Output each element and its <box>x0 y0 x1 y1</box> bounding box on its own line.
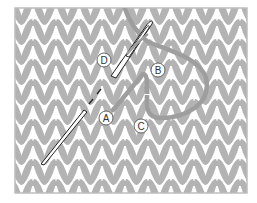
stitch-square <box>169 81 174 86</box>
stitch-square <box>215 161 220 166</box>
stitch-square <box>100 161 105 166</box>
stitch-square <box>100 141 105 146</box>
stitch-square <box>31 81 36 86</box>
stitch-square <box>123 101 128 106</box>
stitch-square <box>123 41 128 46</box>
stitch-square <box>54 61 59 66</box>
stitch-square <box>31 161 36 166</box>
stitch-square <box>54 41 59 46</box>
stitch-square <box>192 141 197 146</box>
stitch-square <box>192 21 197 26</box>
stitch-square <box>31 41 36 46</box>
stitch-square <box>215 181 220 186</box>
label-c: C <box>134 119 148 133</box>
stitch-square <box>169 181 174 186</box>
stitch-square <box>77 81 82 86</box>
label-b: B <box>151 63 165 77</box>
stitch-square <box>123 121 128 126</box>
stitch-square <box>54 81 59 86</box>
stitch-square <box>238 141 243 146</box>
stitch-square <box>123 81 128 86</box>
stitch-square <box>192 181 197 186</box>
stitch-square <box>54 121 59 126</box>
stitch-square <box>192 81 197 86</box>
stitch-square <box>100 181 105 186</box>
stitch-square <box>123 161 128 166</box>
stitch-square <box>238 161 243 166</box>
stitch-square <box>192 121 197 126</box>
stitch-square <box>77 61 82 66</box>
stitch-square <box>31 121 36 126</box>
stitch-square <box>77 41 82 46</box>
stitch-square <box>77 181 82 186</box>
stitch-square <box>31 101 36 106</box>
stitch-square <box>169 101 174 106</box>
stitch-square <box>192 161 197 166</box>
stitch-square <box>146 61 151 66</box>
stitch-square <box>169 161 174 166</box>
stitch-square <box>146 181 151 186</box>
stitch-square <box>238 61 243 66</box>
stitch-square <box>146 141 151 146</box>
stitch-square <box>215 21 220 26</box>
stitch-square <box>54 21 59 26</box>
label-letter: A <box>103 113 110 124</box>
label-letter: C <box>137 121 144 132</box>
stitch-square <box>238 21 243 26</box>
stitch-square <box>31 181 36 186</box>
stitch-square <box>100 101 105 106</box>
stitch-square <box>238 181 243 186</box>
stitch-square <box>215 121 220 126</box>
stitch-square <box>169 141 174 146</box>
stitch-square <box>215 141 220 146</box>
stitch-square <box>123 181 128 186</box>
stitch-square <box>31 61 36 66</box>
stitch-square <box>169 21 174 26</box>
stitch-square <box>238 121 243 126</box>
stitch-square <box>215 101 220 106</box>
stitch-square <box>31 21 36 26</box>
label-a: A <box>99 111 113 125</box>
stitch-square <box>238 101 243 106</box>
stitch-square <box>77 161 82 166</box>
stitch-square <box>100 41 105 46</box>
stitch-square <box>215 61 220 66</box>
label-letter: D <box>100 55 107 66</box>
stitch-square <box>169 121 174 126</box>
duplicate-stitch-diagram: ABCD <box>0 0 257 203</box>
stitch-square <box>123 21 128 26</box>
stitch-square <box>192 41 197 46</box>
stitch-square <box>215 81 220 86</box>
label-d: D <box>97 53 111 67</box>
stitch-square <box>54 161 59 166</box>
stitch-square <box>100 81 105 86</box>
stitch-square <box>54 181 59 186</box>
label-letter: B <box>155 65 162 76</box>
stitch-square <box>169 41 174 46</box>
stitch-square <box>31 141 36 146</box>
stitch-square <box>238 81 243 86</box>
stitch-square <box>77 141 82 146</box>
stitch-square <box>77 101 82 106</box>
stitch-square <box>238 41 243 46</box>
stitch-square <box>100 21 105 26</box>
diagram-canvas: ABCD <box>0 0 257 203</box>
stitch-square <box>77 21 82 26</box>
stitch-square <box>215 41 220 46</box>
stitch-square <box>54 101 59 106</box>
stitch-square <box>146 161 151 166</box>
stitch-square <box>169 61 174 66</box>
stitch-square <box>123 141 128 146</box>
